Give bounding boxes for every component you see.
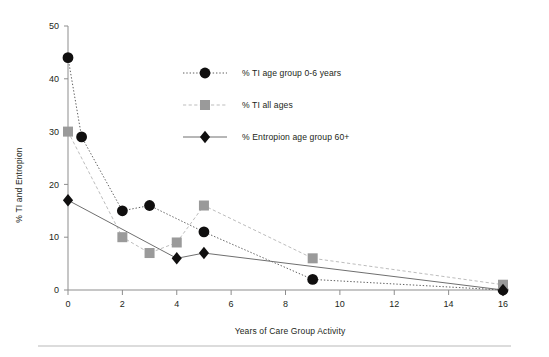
square-marker	[199, 201, 209, 211]
x-tick-label: 14	[444, 299, 454, 309]
x-axis-title: Years of Care Group Activity	[235, 326, 346, 336]
square-marker	[172, 237, 182, 247]
square-marker	[63, 127, 73, 137]
legend-label: % TI age group 0-6 years	[242, 68, 341, 78]
x-tick-label: 4	[174, 299, 179, 309]
y-axis-title: % TI and Entropion	[14, 147, 24, 222]
x-tick-label: 8	[283, 299, 288, 309]
square-marker	[145, 248, 155, 258]
x-tick-label: 10	[335, 299, 345, 309]
legend-entry-0: % TI age group 0-6 years	[183, 68, 341, 79]
chart-figure: 01020304050 0246810121416 % TI and Entro…	[0, 0, 549, 357]
circle-marker	[199, 227, 210, 238]
x-tick-label: 16	[498, 299, 508, 309]
legend-label: % TI all ages	[242, 100, 293, 110]
x-tick-label: 0	[65, 299, 70, 309]
y-tick-label: 50	[49, 21, 59, 31]
circle-marker	[63, 52, 74, 63]
circle-marker	[76, 131, 87, 142]
square-marker	[308, 253, 318, 263]
y-tick-label: 20	[49, 180, 59, 190]
square-marker	[117, 232, 127, 242]
x-tick-label: 12	[389, 299, 399, 309]
y-tick-label: 40	[49, 74, 59, 84]
y-tick-label: 30	[49, 127, 59, 137]
square-marker	[200, 100, 210, 110]
y-tick-label: 0	[54, 285, 59, 295]
x-tick-label: 6	[229, 299, 234, 309]
legend-label: % Entropion age group 60+	[242, 132, 349, 142]
y-tick-label: 10	[49, 232, 59, 242]
circle-marker	[307, 274, 318, 285]
circle-marker	[200, 68, 211, 79]
chart-background	[0, 0, 549, 357]
circle-marker	[117, 205, 128, 216]
x-tick-label: 2	[120, 299, 125, 309]
circle-marker	[144, 200, 155, 211]
